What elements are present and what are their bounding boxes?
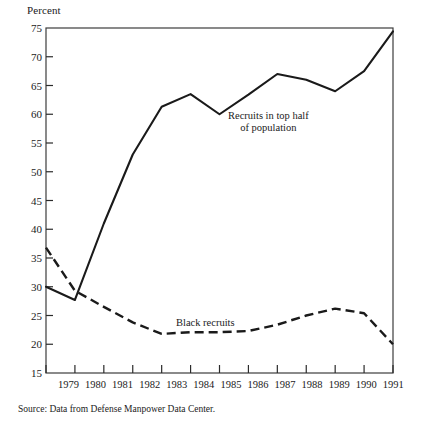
y-tick-label-40: 40 (18, 224, 42, 235)
y-tick-label-15: 15 (18, 368, 42, 379)
y-axis-unit-label: Percent (27, 4, 61, 16)
y-tick-label-70: 70 (18, 52, 42, 63)
series-line-recruits-top-half-visible (46, 31, 393, 300)
series-annotation-black-recruits: Black recruits (176, 317, 235, 329)
y-tick-label-30: 30 (18, 282, 42, 293)
y-tick-label-35: 35 (18, 253, 42, 264)
series-line-black-recruits (46, 248, 393, 345)
x-tick-label-1991: 1991 (376, 380, 410, 391)
y-tick-label-65: 65 (18, 81, 42, 92)
y-tick-label-20: 20 (18, 339, 42, 350)
line-chart-canvas (0, 0, 421, 427)
y-tick-label-25: 25 (18, 311, 42, 322)
x-axis-ticks (46, 365, 393, 373)
y-tick-label-60: 60 (18, 109, 42, 120)
chart-figure: Percent (0, 0, 421, 427)
y-tick-label-75: 75 (18, 23, 42, 34)
series-annotation-line-1: Recruits in top half (228, 110, 309, 122)
y-tick-label-50: 50 (18, 167, 42, 178)
series-annotation-line-2: of population (228, 122, 309, 134)
y-tick-label-55: 55 (18, 138, 42, 149)
y-tick-label-45: 45 (18, 196, 42, 207)
source-note: Source: Data from Defense Manpower Data … (18, 404, 215, 414)
series-annotation-recruits-top-half: Recruits in top half of population (228, 110, 309, 134)
y-axis-ticks (46, 57, 53, 345)
